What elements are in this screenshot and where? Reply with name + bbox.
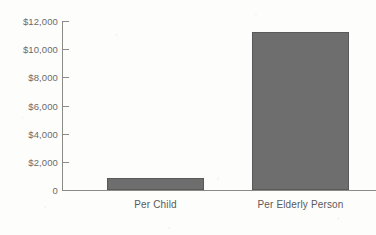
- y-axis-label-10000: $10,000: [23, 45, 58, 55]
- y-axis-label-6000: $6,000: [28, 102, 58, 112]
- y-axis-tick-6000: [63, 106, 69, 107]
- y-axis-label-12000: $12,000: [23, 17, 58, 27]
- y-axis-tick-10000: [63, 49, 69, 50]
- y-axis-label-8000: $8,000: [28, 73, 58, 83]
- y-axis-tick-12000: [63, 21, 69, 22]
- y-axis-tick-2000: [63, 162, 69, 163]
- x-axis-line: [62, 190, 376, 191]
- y-axis-tick-8000: [63, 77, 69, 78]
- category-label-per-elderly-person: Per Elderly Person: [252, 200, 349, 210]
- bar-per-elderly-person: [252, 32, 349, 190]
- y-axis-label-2000: $2,000: [28, 158, 58, 168]
- y-axis-label-0: 0: [53, 186, 58, 196]
- bar-per-child: [107, 178, 204, 190]
- y-axis-tick-4000: [63, 134, 69, 135]
- category-label-per-child: Per Child: [107, 200, 204, 210]
- y-axis-label-4000: $4,000: [28, 130, 58, 140]
- bar-chart-figure: $12,000 $10,000 $8,000 $6,000 $4,000 $2,…: [0, 0, 376, 235]
